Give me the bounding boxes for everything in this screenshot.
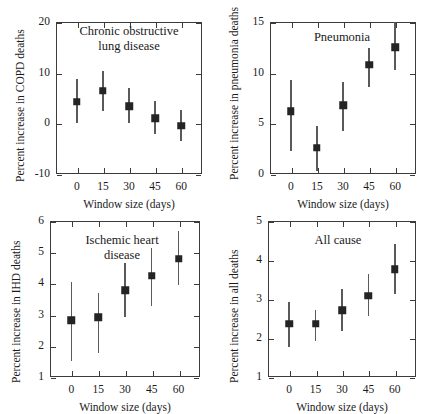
y-tick-allcause-2 [269,300,274,301]
x-tick-top-ihd-2 [126,222,127,227]
x-tick-allcause-4 [396,371,397,376]
x-tick-ihd-0 [72,371,73,376]
y-tick-right-pneumonia-3 [410,23,415,24]
data-point-pneumonia-2 [339,101,347,109]
data-point-allcause-0 [285,320,293,328]
y-tick-pneumonia-2 [271,74,276,75]
y-tick-allcause-3 [269,261,274,262]
y-tick-right-ihd-0 [194,378,199,379]
data-point-ihd-1 [94,314,102,322]
panel-annotation-copd: Chronic obstructivelung disease [70,24,188,54]
x-tick-ihd-4 [180,371,181,376]
data-point-allcause-4 [391,266,399,274]
x-tick-copd-0 [78,168,79,173]
panel-ihd: 123456015304560Ischemic heartdiseaseWind… [0,207,215,414]
y-tick-label-ihd-5: 6 [8,215,44,227]
y-axis-title-allcause: Percent increase in all deaths [228,250,240,383]
data-point-pneumonia-4 [391,44,399,52]
y-tick-copd-3 [57,23,62,24]
x-tick-ihd-3 [153,371,154,376]
y-tick-right-allcause-0 [410,378,415,379]
y-tick-right-pneumonia-2 [410,74,415,75]
x-tick-pneumonia-0 [292,168,293,173]
x-tick-allcause-3 [369,371,370,376]
y-tick-right-allcause-3 [410,261,415,262]
error-bar-ihd-1 [98,293,99,353]
x-tick-top-pneumonia-0 [292,23,293,28]
x-axis-title-allcause: Window size (days) [268,401,416,413]
x-tick-ihd-2 [126,371,127,376]
y-tick-right-ihd-4 [194,253,199,254]
panel-annotation-line-ihd-0: Ischemic heart [66,233,178,248]
y-axis-title-copd: Percent increase in COPD deaths [14,29,26,182]
x-tick-top-allcause-1 [317,222,318,227]
y-tick-ihd-1 [51,347,56,348]
x-tick-top-pneumonia-4 [396,23,397,28]
y-axis-title-pneumonia: Percent increase in pneumonia deaths [228,7,240,180]
panel-annotation-line-copd-0: Chronic obstructive [70,24,188,39]
panel-annotation-ihd: Ischemic heartdisease [66,233,178,263]
y-tick-right-pneumonia-0 [410,175,415,176]
y-tick-right-copd-3 [196,23,201,24]
x-tick-top-pneumonia-2 [344,23,345,28]
panel-annotation-line-copd-1: lung disease [70,39,188,54]
x-tick-pneumonia-4 [396,168,397,173]
x-tick-allcause-2 [343,371,344,376]
error-bar-pneumonia-0 [290,80,291,151]
y-tick-pneumonia-3 [271,23,276,24]
y-tick-allcause-4 [269,222,274,223]
y-tick-right-ihd-1 [194,347,199,348]
data-point-pneumonia-1 [313,144,321,152]
y-tick-right-allcause-4 [410,222,415,223]
y-tick-label-allcause-4: 5 [226,215,262,227]
x-tick-copd-3 [156,168,157,173]
panel-allcause: 12345015304560All causeWindow size (days… [216,207,431,414]
y-tick-ihd-2 [51,316,56,317]
x-tick-top-allcause-4 [396,222,397,227]
x-tick-label-ihd-4: 60 [161,384,197,396]
x-tick-copd-1 [104,168,105,173]
data-point-allcause-1 [312,320,320,328]
y-tick-right-ihd-5 [194,222,199,223]
data-point-ihd-2 [121,287,129,295]
panel-annotation-pneumonia: Pneumonia [294,30,390,45]
x-tick-pneumonia-3 [370,168,371,173]
y-tick-pneumonia-1 [271,124,276,125]
data-point-pneumonia-3 [365,61,373,69]
x-tick-allcause-0 [290,371,291,376]
y-tick-copd-2 [57,74,62,75]
x-tick-ihd-1 [99,371,100,376]
y-tick-allcause-0 [269,378,274,379]
x-tick-top-allcause-3 [369,222,370,227]
y-tick-copd-0 [57,175,62,176]
x-tick-label-pneumonia-4: 60 [377,181,413,193]
data-point-copd-4 [177,122,185,130]
x-tick-label-copd-4: 60 [163,181,199,193]
figure-four-panel-error-bars: -1001020015304560Chronic obstructivelung… [0,0,431,414]
x-tick-top-pneumonia-3 [370,23,371,28]
x-tick-top-allcause-0 [290,222,291,227]
y-tick-right-allcause-2 [410,300,415,301]
x-tick-top-pneumonia-1 [318,23,319,28]
x-tick-copd-2 [130,168,131,173]
x-tick-top-ihd-0 [72,222,73,227]
y-tick-right-allcause-1 [410,339,415,340]
panel-pneumonia: 051015015304560PneumoniaWindow size (day… [216,0,431,207]
x-tick-pneumonia-1 [318,168,319,173]
y-tick-label-copd-3: 20 [14,16,50,28]
x-tick-pneumonia-2 [344,168,345,173]
data-point-ihd-3 [148,272,156,280]
x-tick-label-allcause-4: 60 [377,384,413,396]
panel-annotation-line-pneumonia-0: Pneumonia [294,30,390,45]
y-tick-copd-1 [57,124,62,125]
panel-annotation-allcause: All cause [290,233,386,248]
y-tick-ihd-0 [51,378,56,379]
data-point-pneumonia-0 [287,107,295,115]
y-tick-right-copd-1 [196,124,201,125]
x-axis-title-ihd: Window size (days) [50,401,200,413]
x-tick-top-ihd-3 [153,222,154,227]
y-tick-allcause-1 [269,339,274,340]
y-tick-right-ihd-3 [194,284,199,285]
panel-annotation-line-allcause-0: All cause [290,233,386,248]
data-point-allcause-3 [365,292,373,300]
